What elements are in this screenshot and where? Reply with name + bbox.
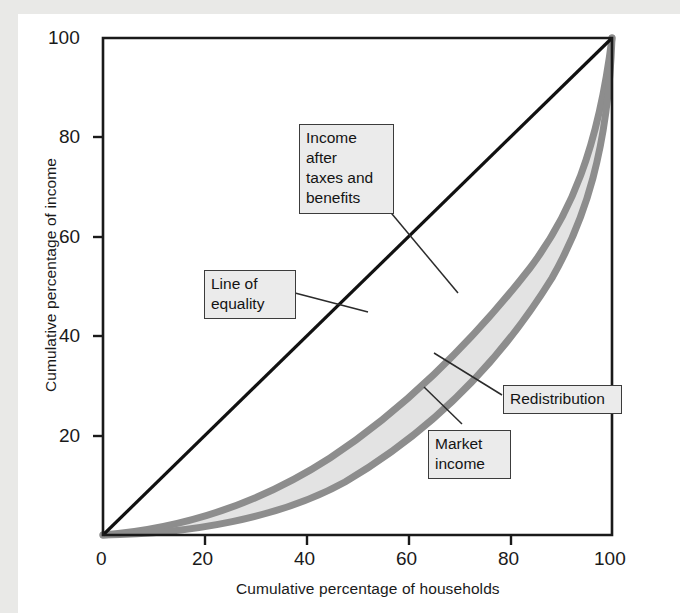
leader-line-of-equality xyxy=(295,293,368,312)
chart-plot-area xyxy=(0,0,680,613)
y-tick-20: 20 xyxy=(59,425,80,447)
x-axis-ticks xyxy=(205,535,511,545)
y-axis-ticks xyxy=(93,137,103,436)
callout-line-of-equality: Line of equality xyxy=(204,270,296,319)
callout-market-income: Market income xyxy=(428,430,511,479)
x-tick-20: 20 xyxy=(192,548,213,570)
x-tick-80: 80 xyxy=(498,548,519,570)
y-tick-40: 40 xyxy=(59,325,80,347)
lorenz-curve-figure: 100 80 60 40 20 0 20 40 60 80 100 Cumula… xyxy=(0,0,680,613)
y-axis-title: Cumulative percentage of income xyxy=(42,158,60,392)
y-tick-80: 80 xyxy=(59,126,80,148)
y-tick-100: 100 xyxy=(48,27,80,49)
callout-leader-lines xyxy=(295,190,502,424)
x-axis-title: Cumulative percentage of households xyxy=(236,580,500,598)
x-tick-100: 100 xyxy=(594,548,626,570)
x-tick-0: 0 xyxy=(96,548,107,570)
x-tick-60: 60 xyxy=(396,548,417,570)
callout-income-after-taxes: Income after taxes and benefits xyxy=(299,124,394,214)
callout-redistribution: Redistribution xyxy=(503,385,622,414)
y-tick-60: 60 xyxy=(59,226,80,248)
x-tick-40: 40 xyxy=(294,548,315,570)
